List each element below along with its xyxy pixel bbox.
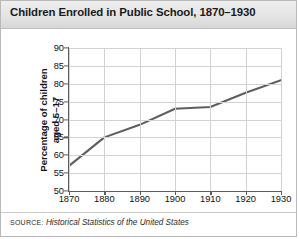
gridline-vertical bbox=[104, 48, 105, 191]
x-axis-line bbox=[68, 191, 282, 192]
source-divider bbox=[1, 212, 296, 213]
x-axis-tick-label: 1920 bbox=[235, 194, 256, 204]
source-reference: Historical Statistics of the United Stat… bbox=[46, 218, 189, 227]
plot-area bbox=[69, 48, 281, 191]
y-axis-tick-label: 60 bbox=[54, 150, 64, 160]
x-axis-tick-label: 1910 bbox=[200, 194, 221, 204]
x-axis-tick-label: 1930 bbox=[271, 194, 292, 204]
y-axis-line bbox=[68, 47, 69, 192]
x-axis-tick-label: 1900 bbox=[165, 194, 186, 204]
y-axis-tick-label: 65 bbox=[54, 132, 64, 142]
gridline-vertical bbox=[281, 48, 282, 191]
x-axis-tick-label: 1880 bbox=[94, 194, 115, 204]
y-axis-tick-label: 85 bbox=[54, 61, 64, 71]
y-axis-tick-label: 75 bbox=[54, 97, 64, 107]
gridline-vertical bbox=[246, 48, 247, 191]
y-axis-tick-labels: 505560657075808590 bbox=[1, 1, 64, 239]
y-axis-tick-label: 55 bbox=[54, 168, 64, 178]
chart-figure: Children Enrolled in Public School, 1870… bbox=[0, 0, 297, 237]
gridline-vertical bbox=[175, 48, 176, 191]
gridline-vertical bbox=[210, 48, 211, 191]
y-axis-tick-label: 80 bbox=[54, 79, 64, 89]
x-axis-tick-label: 1890 bbox=[129, 194, 150, 204]
x-axis-tick-label: 1870 bbox=[59, 194, 80, 204]
source-note: SOURCE: Historical Statistics of the Uni… bbox=[10, 218, 189, 227]
y-axis-tick-label: 90 bbox=[54, 43, 64, 53]
source-label: SOURCE: bbox=[10, 219, 44, 226]
gridline-vertical bbox=[140, 48, 141, 191]
y-axis-tick-label: 70 bbox=[54, 115, 64, 125]
